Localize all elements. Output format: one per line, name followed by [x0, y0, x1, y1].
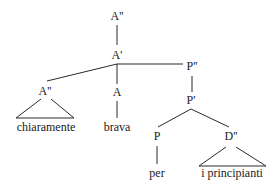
leaf-head-word: brava: [104, 120, 131, 134]
node-adv-phrase: A'': [39, 84, 52, 98]
triangle-advphrase: [16, 99, 74, 118]
node-a-bar: A': [112, 48, 123, 62]
triangle-dp: [199, 147, 266, 166]
leaf-p-word: per: [149, 166, 164, 180]
node-head-p: P: [154, 129, 161, 143]
node-root: A'': [111, 9, 124, 23]
edge-pbar-dp: [191, 109, 229, 127]
leaf-adv-word: chiaramente: [17, 120, 76, 134]
tree-edges: [16, 25, 266, 166]
node-dp: D'': [225, 129, 238, 143]
node-head-a: A: [113, 85, 122, 99]
node-pp: P'': [187, 59, 198, 73]
node-p-bar: P': [187, 93, 196, 107]
edge-pbar-headp: [158, 109, 191, 127]
syntax-tree: A'' A' A'' chiaramente A brava P'' P' P …: [0, 0, 280, 190]
tree-nodes: A'' A' A'' chiaramente A brava P'' P' P …: [17, 9, 264, 180]
leaf-dp-words: i principianti: [201, 166, 263, 180]
edge-abar-advphrase: [47, 64, 117, 81]
